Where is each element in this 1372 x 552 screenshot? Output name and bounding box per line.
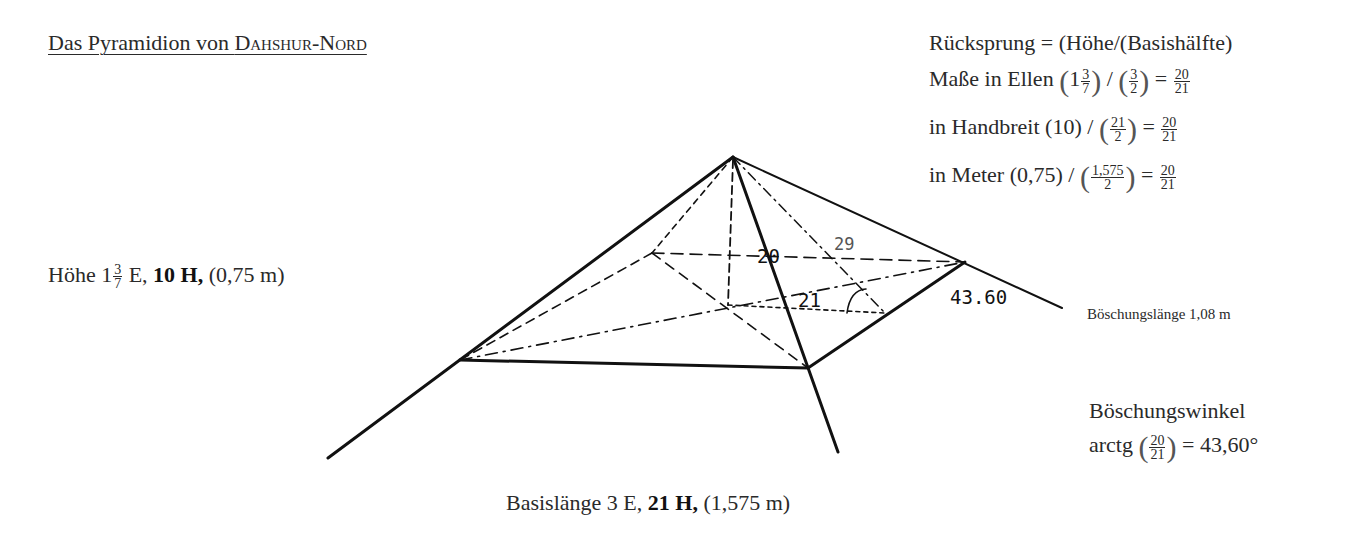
base-edge-back-right bbox=[652, 253, 965, 262]
height-line bbox=[728, 160, 733, 305]
edge-back-hidden bbox=[652, 157, 733, 253]
angle-arc bbox=[847, 289, 866, 313]
pyramid-diagram: 20 21 29 43.60 bbox=[0, 0, 1372, 552]
base-diagonal-2 bbox=[460, 262, 965, 360]
base-edge-front-left bbox=[460, 360, 808, 368]
label-apothem-29: 29 bbox=[834, 234, 854, 254]
edge-left bbox=[328, 157, 733, 458]
base-edge-back-left bbox=[460, 253, 652, 360]
edge-right bbox=[733, 157, 1062, 308]
label-angle-43-60: 43.60 bbox=[950, 286, 1007, 308]
label-height-20: 20 bbox=[757, 245, 780, 267]
label-half-base-21: 21 bbox=[798, 289, 821, 311]
